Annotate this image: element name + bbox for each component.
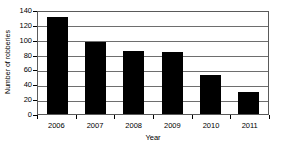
y-axis-tick-label: 140 <box>12 7 32 15</box>
bar <box>47 17 68 114</box>
bar-series <box>38 12 268 114</box>
bar-slot <box>153 12 191 114</box>
y-axis-tick-label-group: 020406080100120140 <box>12 11 32 115</box>
y-axis-tick-label: 100 <box>12 37 32 45</box>
bar-slot <box>230 12 268 114</box>
y-axis-tick-label: 60 <box>12 66 32 74</box>
x-axis-tick-mark <box>114 115 115 119</box>
bar-slot <box>191 12 229 114</box>
y-axis-tick-mark <box>33 100 37 101</box>
x-axis-title: Year <box>37 133 269 143</box>
y-axis-tick-mark <box>33 41 37 42</box>
x-axis-tick-mark <box>153 115 154 119</box>
x-axis-tick-mark <box>230 115 231 119</box>
bar-slot <box>38 12 76 114</box>
bar <box>238 92 259 114</box>
x-axis-tick-label: 2008 <box>114 120 153 131</box>
x-axis-tick-mark <box>37 115 38 119</box>
y-axis-tick-mark <box>33 11 37 12</box>
x-axis-tick-label: 2010 <box>192 120 231 131</box>
y-axis-tick-mark <box>33 85 37 86</box>
x-axis-tick-label: 2006 <box>37 120 76 131</box>
bar <box>123 51 144 114</box>
x-axis-tick-label: 2009 <box>153 120 192 131</box>
y-axis-tick-mark <box>33 70 37 71</box>
x-axis-tick-label-group: 200620072008200920102011 <box>37 120 269 131</box>
y-axis-tick-label: 0 <box>12 111 32 119</box>
y-axis-tick-mark <box>33 56 37 57</box>
y-axis-tick-label: 80 <box>12 52 32 60</box>
x-axis-tick-mark <box>192 115 193 119</box>
bar <box>85 42 106 114</box>
plot-area <box>37 11 269 115</box>
y-axis-tick-label: 20 <box>12 96 32 104</box>
x-axis-tick-label: 2011 <box>230 120 269 131</box>
bar <box>162 52 183 114</box>
bar <box>200 75 221 114</box>
bar-slot <box>115 12 153 114</box>
x-axis-tick-label: 2007 <box>76 120 115 131</box>
x-axis-tick-mark <box>269 115 270 119</box>
y-axis-tick-mark <box>33 26 37 27</box>
y-axis-tick-label: 40 <box>12 81 32 89</box>
bar-chart-figure: Number of robberies 020406080100120140 2… <box>0 0 284 152</box>
bar-slot <box>76 12 114 114</box>
x-axis-tick-mark <box>76 115 77 119</box>
y-axis-tick-label: 120 <box>12 22 32 30</box>
